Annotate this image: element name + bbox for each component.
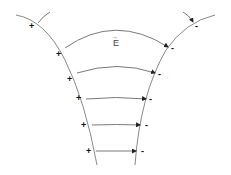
negative-charge-2: -: [171, 43, 174, 53]
negative-charge-6: -: [141, 146, 144, 156]
negative-charge-1: -: [195, 21, 198, 31]
positive-charge-3: +: [67, 74, 72, 84]
positive-charge-5: +: [81, 120, 86, 130]
negative-charge-5: -: [145, 120, 148, 130]
field-label-vector-arrow: →: [112, 34, 118, 40]
left-conductor-surface: [16, 15, 97, 165]
positive-charge-2: +: [56, 49, 61, 59]
field-diagram: E → + + + + + + - - - - - -: [0, 0, 231, 175]
right-conductor-surface: [135, 15, 215, 165]
field-line-top-right-partial: [183, 12, 193, 22]
field-line-4: [92, 125, 140, 126]
field-line-3: [86, 98, 146, 100]
negative-charge-3: -: [158, 69, 161, 79]
positive-charge-1: +: [29, 21, 34, 31]
positive-charge-4: +: [76, 93, 81, 103]
field-line-2: [77, 67, 155, 74]
field-line-top-left-partial: [38, 12, 50, 23]
negative-charge-4: -: [149, 94, 152, 104]
positive-charge-6: +: [86, 146, 91, 156]
